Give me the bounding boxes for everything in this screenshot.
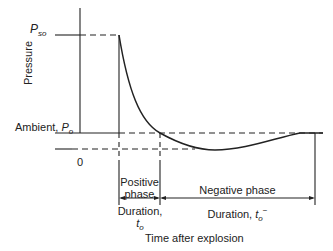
- arrowhead-icon: [309, 196, 315, 200]
- zero-label: 0: [77, 156, 83, 168]
- x-axis-label: Time after explosion: [145, 232, 244, 244]
- negative-phase-label: Negative phase: [160, 184, 315, 196]
- arrowhead-icon: [160, 196, 166, 200]
- peak-pressure-label: Pso: [30, 23, 46, 40]
- negative-duration-label: Duration, to−: [160, 205, 315, 225]
- positive-phase-label: Positivephase: [119, 176, 160, 200]
- y-axis-label: Pressure: [22, 41, 34, 85]
- ambient-pressure-label: Ambient, Po: [15, 121, 73, 138]
